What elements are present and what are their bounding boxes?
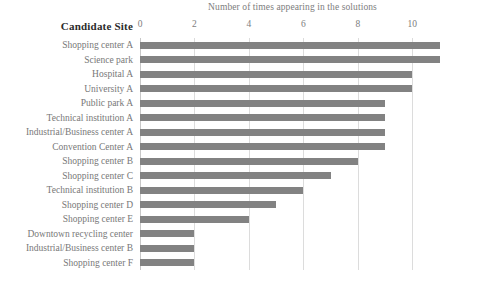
bar — [140, 259, 194, 266]
category-label: Downtown recycling center — [0, 227, 133, 242]
category-label: Shopping center B — [0, 154, 133, 169]
category-label: Shopping center D — [0, 198, 133, 213]
bar — [140, 158, 358, 165]
bar-row: Science park — [140, 53, 445, 68]
category-label: Shopping center E — [0, 212, 133, 227]
bar — [140, 245, 194, 252]
x-axis-tick-labels: 0246810 — [0, 19, 485, 33]
category-label: Technical institution A — [0, 111, 133, 126]
bar-row: Industrial/Business center A — [140, 125, 445, 140]
x-tick-label: 4 — [247, 19, 252, 29]
category-label: Shopping center A — [0, 38, 133, 53]
bar — [140, 230, 194, 237]
category-label: Shopping center C — [0, 169, 133, 184]
category-label: Convention Center A — [0, 140, 133, 155]
bar — [140, 216, 249, 223]
bar — [140, 42, 440, 49]
bar-row: Industrial/Business center B — [140, 241, 445, 256]
x-tick-label: 0 — [138, 19, 143, 29]
category-label: University A — [0, 82, 133, 97]
bar — [140, 56, 440, 63]
bar-row: Public park A — [140, 96, 445, 111]
category-label: Industrial/Business center A — [0, 125, 133, 140]
x-tick-label: 10 — [408, 19, 418, 29]
bar-row: Shopping center E — [140, 212, 445, 227]
bar-row: Technical institution A — [140, 111, 445, 126]
bar — [140, 71, 412, 78]
bar — [140, 114, 385, 121]
x-tick-label: 6 — [301, 19, 306, 29]
bar — [140, 143, 385, 150]
bar — [140, 129, 385, 136]
bar-row: Shopping center A — [140, 38, 445, 53]
bar-row: Shopping center C — [140, 169, 445, 184]
bar-row: Hospital A — [140, 67, 445, 82]
bar — [140, 187, 303, 194]
category-label: Hospital A — [0, 67, 133, 82]
category-label: Industrial/Business center B — [0, 241, 133, 256]
x-tick-label: 2 — [192, 19, 197, 29]
bar-row: Technical institution B — [140, 183, 445, 198]
x-tick-label: 8 — [355, 19, 360, 29]
bar-row: Convention Center A — [140, 140, 445, 155]
bar-row: Downtown recycling center — [140, 227, 445, 242]
bar-row: University A — [140, 82, 445, 97]
category-label: Technical institution B — [0, 183, 133, 198]
bar-row: Shopping center F — [140, 256, 445, 271]
bar — [140, 85, 412, 92]
bar-row: Shopping center D — [140, 198, 445, 213]
bar — [140, 100, 385, 107]
bar-chart: Number of times appearing in the solutio… — [0, 0, 485, 281]
category-label: Science park — [0, 53, 133, 68]
x-axis-title: Number of times appearing in the solutio… — [140, 2, 445, 12]
bar — [140, 172, 331, 179]
bar — [140, 201, 276, 208]
bar-row: Shopping center B — [140, 154, 445, 169]
plot-area: Shopping center AScience parkHospital AU… — [140, 38, 445, 270]
category-label: Shopping center F — [0, 256, 133, 271]
category-label: Public park A — [0, 96, 133, 111]
